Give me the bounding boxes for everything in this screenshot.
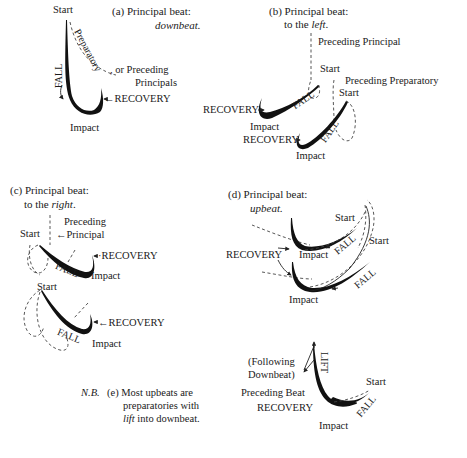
panel-a-recovery-label: ←RECOVERY — [104, 93, 171, 105]
panel-d-recovery-label: RECOVERY — [226, 249, 282, 261]
panel-a-or-preceding-label: , or Preceding — [110, 64, 169, 76]
panel-c-subtitle-suffix: . — [73, 198, 76, 210]
panel-e-nb: N.B. — [81, 387, 100, 399]
panel-c-recovery-text-2: RECOVERY — [109, 317, 165, 328]
panel-a-subtitle-suffix: . — [198, 19, 201, 31]
panel-c-subtitle-prefix: to the — [24, 198, 52, 210]
panel-e-recovery-label: RECOVERY — [257, 402, 313, 414]
panel-a-title: (a) Principal beat: — [112, 5, 191, 18]
panel-b-preceding-preparatory-label: Preceding Preparatory — [345, 75, 439, 87]
panel-b-title: (b) Principal beat: — [269, 5, 348, 18]
panel-e-preceding-beat-label: Preceding Beat — [241, 387, 305, 399]
panel-c-recovery-text-1: RECOVERY — [102, 250, 158, 261]
panel-b-recovery-label-1: RECOVERY — [203, 104, 259, 116]
panel-d-subtitle-suffix: . — [280, 202, 283, 214]
panel-a-impact-label: Impact — [70, 122, 99, 134]
arrow-left-icon: ← — [98, 317, 109, 328]
panel-c-principal-text: Principal — [67, 229, 105, 240]
panel-b-preceding-principal-label: Preceding Principal — [318, 36, 401, 48]
panel-d-start-label-1: Start — [335, 212, 355, 224]
panel-d-impact-label-2: Impact — [289, 294, 318, 306]
panel-e-following-label-1: (Following — [248, 356, 295, 368]
panel-b-recovery-label-2: RECOVERY — [243, 134, 299, 146]
panel-c-principal-label: ←Principal — [56, 229, 104, 241]
panel-b-subtitle-em: left — [312, 18, 326, 30]
panel-d-start-label-2: Start — [369, 235, 389, 247]
panel-b-subtitle-prefix: to the — [284, 18, 312, 30]
panel-e-following-label-2: Downbeat) — [248, 369, 295, 381]
panel-c-start-label-1: Start — [20, 228, 40, 240]
panel-e-lift-em: lift — [123, 413, 135, 424]
panel-c-subtitle-em: right — [52, 198, 73, 210]
panel-a-subtitle-text: downbeat — [155, 19, 198, 31]
panel-b-subtitle-suffix: . — [326, 18, 329, 30]
panel-d-subtitle-text: upbeat — [250, 202, 280, 214]
panel-e-lift-label: LIFT — [319, 352, 330, 373]
panel-a-fall-label: FALL — [53, 64, 64, 88]
panel-b-start-label-1: Start — [320, 63, 340, 75]
panel-c-impact-label-2: Impact — [92, 338, 121, 350]
panel-c-start-label-2: Start — [37, 281, 57, 293]
panel-c-recovery-label-2: ←RECOVERY — [98, 317, 165, 329]
panel-b-impact-label-2: Impact — [296, 150, 325, 162]
panel-d-title: (d) Principal beat: — [228, 188, 307, 201]
panel-e-note-line-3: lift into downbeat. — [123, 413, 200, 425]
panel-e-note-line-3-rest: into downbeat. — [135, 413, 200, 424]
panel-c-subtitle: to the right. — [24, 198, 76, 211]
panel-e-start-label: Start — [366, 376, 386, 388]
panel-a-start-label: Start — [53, 4, 73, 16]
panel-e-stroke — [304, 342, 370, 407]
panel-c-recovery-label-1: ·RECOVERY — [98, 250, 158, 262]
panel-b-subtitle: to the left. — [284, 18, 328, 31]
panel-e-note-line-2: preparatories with — [123, 400, 199, 412]
panel-a-subtitle: downbeat. — [155, 19, 201, 32]
panel-a-principals-label: Principals — [135, 77, 177, 89]
panel-b-start-label-2: Start — [339, 87, 359, 99]
panel-c-preceding-label: Preceding — [64, 216, 106, 228]
panel-c-title: (c) Principal beat: — [10, 184, 89, 197]
panel-d-subtitle: upbeat. — [250, 202, 283, 215]
panel-d-impact-label-1: Impact — [299, 249, 328, 261]
panel-c-impact-label-1: Impact — [91, 270, 120, 282]
arrow-left-icon: ← — [56, 229, 67, 240]
panel-b-impact-label-1: Impact — [250, 121, 279, 133]
panel-e-note-line-1: (e) Most upbeats are — [107, 387, 193, 399]
panel-e-impact-label: Impact — [319, 420, 348, 432]
